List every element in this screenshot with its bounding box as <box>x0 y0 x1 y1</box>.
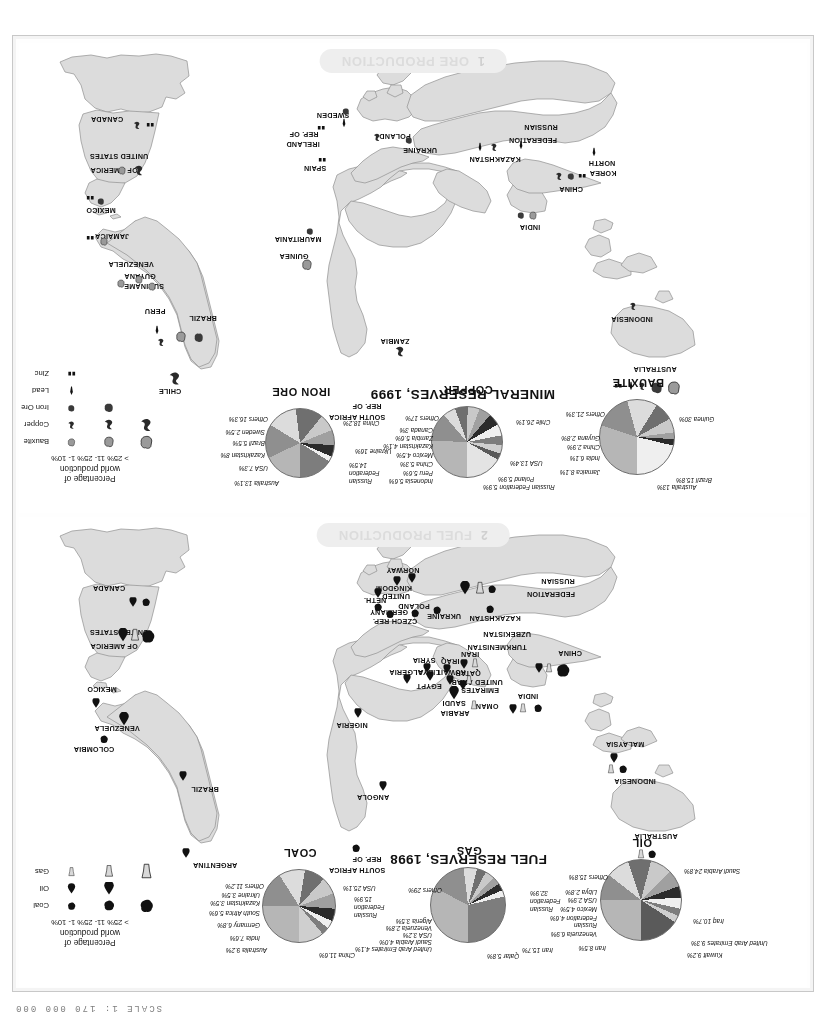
pie-slice-label: Sweden 2.5% <box>226 429 265 436</box>
ore-production-legend: Percentage of world production > 25% 11-… <box>15 365 165 483</box>
legend-symbol-iron-sm <box>53 402 90 412</box>
legend-caption-line1: Percentage of <box>15 474 165 484</box>
scale-code: SCALE 1: 170 000 000 <box>14 1003 162 1013</box>
legend-symbol-bauxite-lg <box>128 433 165 450</box>
legend-symbol-lead-sm <box>53 385 90 395</box>
legend-symbol-coal-md <box>90 899 127 913</box>
legend-row-lead: Lead <box>15 382 165 399</box>
pie-slice-label: Brazil 5.5% <box>233 440 265 447</box>
legend-row-copper: Copper <box>15 416 165 433</box>
legend-symbol-zinc-sm <box>53 368 90 378</box>
legend-rows: CoalOilGas <box>15 863 165 914</box>
legend-caption-line2: world production <box>15 928 165 938</box>
legend-symbol-gas-sm <box>53 866 90 876</box>
legend-symbol-copper-md <box>90 418 127 432</box>
legend-symbol-coal-sm <box>53 900 90 910</box>
legend-row-zinc: Zinc <box>15 365 165 382</box>
pie-slice-label: Australia 13.1% <box>234 480 279 487</box>
legend-row-iron-ore: Iron Ore <box>15 399 165 416</box>
pie-slices-iron <box>265 408 335 478</box>
legend-symbol-coal-lg <box>128 897 165 914</box>
legend-label-coal: Coal <box>15 901 53 910</box>
pie-slice-label: Russian <box>349 478 813 485</box>
legend-label-zinc: Zinc <box>15 369 53 378</box>
legend-caption-line2: world production <box>15 464 165 474</box>
pie-slice-label: 14.5% <box>349 462 813 469</box>
atlas-page: CANADAUNITED STATESOF AMERICAMEXICOVENEZ… <box>12 35 814 992</box>
pie-slice-label: USA 7.3% <box>239 465 268 472</box>
legend-label-gas: Gas <box>15 867 53 876</box>
legend-label-iron: Iron Ore <box>15 403 53 412</box>
pie-slice-label: Others 16.3% <box>229 416 268 423</box>
legend-row-coal: Coal <box>15 897 165 914</box>
pie-slice-label: Federation <box>349 470 813 477</box>
legend-symbol-copper-lg <box>128 416 165 433</box>
legend-label-lead: Lead <box>15 386 53 395</box>
legend-scale: > 25% 11- 25% 1- 10% <box>15 918 165 927</box>
legend-label-copper: Copper <box>15 420 53 429</box>
legend-symbol-bauxite-sm <box>53 436 90 446</box>
legend-label-oil: Oil <box>15 884 53 893</box>
legend-label-bauxite: Bauxite <box>15 437 53 446</box>
pie-slice-label: China 18.2% <box>343 420 813 427</box>
legend-scale: > 25% 11- 25% 1- 10% <box>15 454 165 463</box>
legend-symbol-oil-md <box>90 882 127 896</box>
rotated-page-content: SCALE 1: 170 000 000 <box>0 0 828 1016</box>
legend-symbol-iron-md <box>90 401 127 415</box>
pie-title-iron: IRON ORE <box>272 386 330 398</box>
legend-symbol-oil-sm <box>53 883 90 893</box>
pie-chart-iron: IRON OREAustralia 13.1%USA 7.3%Kazakhsta… <box>13 36 813 991</box>
pie-slice-label: Ukraine 16% <box>355 448 813 455</box>
legend-caption-line1: Percentage of <box>15 938 165 948</box>
legend-row-bauxite: Bauxite <box>15 433 165 450</box>
legend-symbol-gas-md <box>90 865 127 879</box>
legend-symbol-copper-sm <box>53 419 90 429</box>
legend-row-gas: Gas <box>15 863 165 880</box>
legend-symbol-bauxite-md <box>90 435 127 449</box>
legend-row-oil: Oil <box>15 880 165 897</box>
pie-slice-label: Kazakhstan 8% <box>221 452 265 459</box>
legend-symbol-gas-lg <box>128 863 165 880</box>
fuel-production-legend: Percentage of world production > 25% 11-… <box>15 863 165 947</box>
legend-rows: BauxiteCopperIron OreLeadZinc <box>15 365 165 450</box>
